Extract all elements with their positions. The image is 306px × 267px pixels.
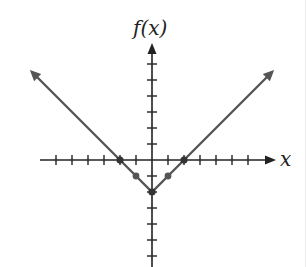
data-point: [180, 156, 187, 163]
x-axis-label: x: [280, 147, 291, 171]
data-point: [165, 173, 172, 180]
y-axis-arrow-icon: [148, 43, 157, 54]
data-point: [133, 173, 140, 180]
data-point: [116, 156, 123, 163]
data-point: [148, 188, 155, 195]
y-axis-label: f(x): [131, 16, 167, 40]
function-plot: f(x) x: [0, 0, 306, 267]
x-axis-arrow-icon: [265, 156, 276, 165]
graph-canvas: f(x) x: [0, 0, 306, 267]
axes: [40, 43, 276, 267]
